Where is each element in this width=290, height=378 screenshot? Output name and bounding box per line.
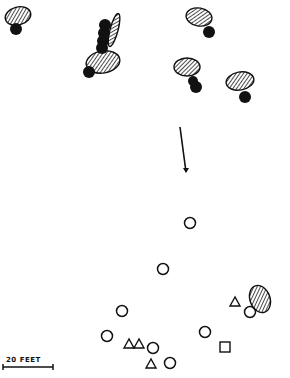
open-circle [185, 218, 196, 229]
filled-circle [83, 66, 95, 78]
scale-bar [3, 364, 53, 370]
hatched-oval [246, 282, 274, 315]
arrow-head [183, 168, 189, 173]
filled-circles [10, 19, 251, 103]
open-circle [102, 331, 113, 342]
site-diagram [0, 0, 290, 378]
arrow-icon [180, 127, 189, 173]
filled-circle [203, 26, 215, 38]
scale-bar-label: 20 FEET [6, 356, 41, 364]
filled-circle [10, 23, 22, 35]
filled-circle [96, 42, 108, 54]
open-square [220, 342, 230, 352]
filled-circle [190, 81, 202, 93]
hatched-oval [185, 6, 214, 28]
open-triangle [134, 339, 144, 348]
open-triangle [124, 339, 134, 348]
hatched-oval [225, 70, 256, 93]
hatched-ovals [3, 4, 274, 316]
open-circle [165, 358, 176, 369]
hatched-oval [174, 58, 200, 76]
arrow-shaft [180, 127, 186, 172]
open-triangles [124, 297, 240, 368]
open-circle [245, 307, 256, 318]
open-circle [148, 343, 159, 354]
open-circle [200, 327, 211, 338]
filled-circle [239, 91, 251, 103]
open-circle [158, 264, 169, 275]
open-circle [117, 306, 128, 317]
open-triangle [146, 359, 156, 368]
open-triangle [230, 297, 240, 306]
open-squares [220, 342, 230, 352]
